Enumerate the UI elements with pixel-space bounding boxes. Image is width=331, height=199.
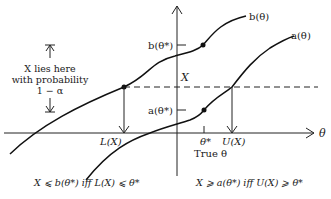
interval-note-line3: 1 − α <box>37 85 64 96</box>
equivalence-left: X ⩽ b(θ*) iff L(X) ⩽ θ* <box>33 177 140 188</box>
upper-curve-label: b(θ) <box>249 11 269 22</box>
interval-note-line1: X lies here <box>24 63 76 74</box>
a-theta-star-point <box>202 108 207 113</box>
interval-note-line2: with probability <box>12 74 89 85</box>
theta-axis-label: θ <box>319 127 326 140</box>
theta-star-label: θ* <box>200 136 211 147</box>
confidence-interval-diagram: θ X b(θ) a(θ) b(θ*) a(θ*) L(X) θ* True θ… <box>0 0 331 199</box>
lower-curve-a <box>86 36 294 180</box>
equivalence-right: X ⩾ a(θ*) iff U(X) ⩾ θ* <box>195 177 303 188</box>
b-theta-star-label: b(θ*) <box>148 40 173 51</box>
b-theta-star-point <box>201 43 206 48</box>
x-level-label: X <box>180 71 190 84</box>
true-theta-label: True θ <box>194 148 227 159</box>
lower-bound-label: L(X) <box>99 136 122 147</box>
a-theta-star-label: a(θ*) <box>148 105 173 116</box>
upper-bound-label: U(X) <box>222 136 245 147</box>
lower-curve-label: a(θ) <box>291 30 311 41</box>
x-axis-vertical <box>172 6 182 176</box>
